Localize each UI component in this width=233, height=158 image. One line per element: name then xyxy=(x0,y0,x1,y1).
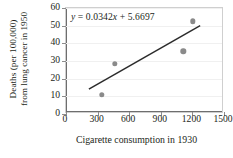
x-axis-title: Cigarette consumption in 1930 xyxy=(40,134,233,145)
trend-line xyxy=(66,8,222,112)
y-tick-label: 50 xyxy=(50,20,60,30)
x-tick-label: 0 xyxy=(63,114,68,124)
y-axis-tick-labels: 0102030405060 xyxy=(36,0,62,120)
scatter-chart: Deaths (per 100,000) from lung cancer in… xyxy=(0,0,233,158)
y-tick-label: 60 xyxy=(50,2,60,12)
regression-equation-label: y = 0.0342x + 5.6697 xyxy=(71,11,155,22)
y-tick-label: 20 xyxy=(50,73,60,83)
y-axis-title-line-2: from lung cancer in 1950 xyxy=(19,12,30,106)
y-axis-title: Deaths (per 100,000) from lung cancer in… xyxy=(0,0,32,120)
y-tick-label: 40 xyxy=(50,38,60,48)
y-tick-label: 10 xyxy=(50,91,60,101)
y-axis-title-line-1: Deaths (per 100,000) xyxy=(8,20,19,99)
y-tick-label: 30 xyxy=(50,55,60,65)
equation-slope-part: = 0.0342 xyxy=(75,11,113,22)
x-tick-label: 600 xyxy=(121,114,135,124)
x-tick-label: 900 xyxy=(153,114,167,124)
x-tick-label: 1500 xyxy=(213,114,232,124)
y-tick-label: 0 xyxy=(55,108,60,118)
x-tick-label: 1200 xyxy=(182,114,201,124)
x-tick-label: 300 xyxy=(89,114,103,124)
x-axis-tick-labels: 030060090012001500 xyxy=(65,114,223,128)
equation-intercept-part: + 5.6697 xyxy=(117,11,155,22)
plot-area: y = 0.0342x + 5.6697 xyxy=(65,7,223,113)
